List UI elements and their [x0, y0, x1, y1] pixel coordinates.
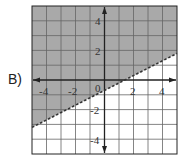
y-tick-label: 4 — [95, 15, 101, 27]
x-tick-label: -2 — [68, 85, 77, 97]
y-tick-label: 2 — [95, 45, 101, 57]
y-tick-label: -4 — [90, 134, 100, 146]
x-tick-label: -4 — [39, 85, 49, 97]
x-tick-label: 4 — [159, 85, 165, 97]
inequality-graph: -4 -2 0 2 4 4 2 -2 -4 — [0, 0, 190, 160]
y-tick-label: -2 — [90, 104, 99, 116]
x-axis-right-arrow-icon — [169, 78, 176, 83]
origin-label: 0 — [95, 82, 101, 94]
x-tick-label: 2 — [130, 85, 136, 97]
y-axis-down-arrow-icon — [102, 146, 107, 153]
